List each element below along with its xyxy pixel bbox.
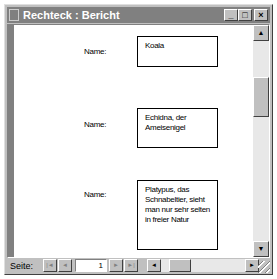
window-title: Rechteck : Bericht	[23, 7, 120, 23]
name-label: Name:	[84, 120, 106, 129]
scroll-up-button[interactable]: ▲	[253, 25, 269, 41]
horizontal-scrollbar[interactable]: ◄ ►	[147, 259, 259, 272]
previous-page-button[interactable]: ◄	[58, 259, 72, 272]
scroll-down-button[interactable]: ▼	[253, 241, 269, 257]
maximize-button[interactable]: □	[238, 9, 252, 21]
title-bar[interactable]: Rechteck : Bericht _ □ ×	[7, 7, 270, 23]
vertical-scroll-thumb[interactable]	[253, 77, 269, 117]
report-window: Rechteck : Bericht _ □ × Name: Koala Nam…	[4, 4, 273, 275]
vertical-scrollbar[interactable]: ▲ ▼	[253, 25, 269, 257]
horizontal-scroll-thumb[interactable]	[169, 259, 191, 272]
first-page-button[interactable]: |◄	[43, 259, 57, 272]
last-page-button[interactable]: ►|	[124, 259, 138, 272]
page-label: Seite:	[10, 260, 33, 272]
resize-grip[interactable]	[258, 261, 270, 273]
name-field: Platypus, das Schnabeltier, sieht man nu…	[137, 180, 218, 250]
report-icon	[9, 9, 19, 21]
name-field: Echidna, der Ameisenigel	[137, 108, 218, 148]
name-field: Koala	[137, 36, 218, 67]
page-number-input[interactable]: 1	[75, 259, 107, 272]
scroll-right-button[interactable]: ►	[245, 259, 259, 272]
page-navigation-bar: Seite: |◄ ◄ 1 ► ►| ◄ ►	[7, 259, 270, 273]
scroll-left-button[interactable]: ◄	[147, 259, 161, 272]
close-button[interactable]: ×	[254, 9, 268, 21]
next-page-button[interactable]: ►	[109, 259, 123, 272]
name-label: Name:	[84, 47, 106, 56]
report-preview-area: Name: Koala Name: Echidna, der Ameisenig…	[7, 24, 270, 258]
name-label: Name:	[84, 190, 106, 199]
minimize-button[interactable]: _	[224, 9, 238, 21]
report-page: Name: Koala Name: Echidna, der Ameisenig…	[14, 25, 254, 257]
